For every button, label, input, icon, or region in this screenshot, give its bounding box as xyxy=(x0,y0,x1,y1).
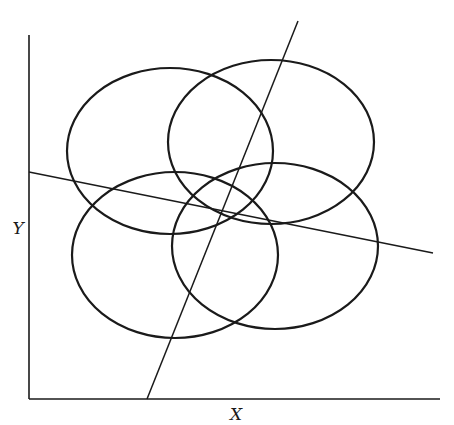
ellipse-top-right xyxy=(168,60,374,224)
y-axis-label: Y xyxy=(12,218,25,238)
ellipses-group xyxy=(67,60,378,338)
steep-discriminant-line xyxy=(147,21,298,399)
ellipse-top-left xyxy=(67,68,273,234)
scatter-ellipse-diagram: X Y xyxy=(0,0,454,425)
x-axis-label: X xyxy=(228,404,243,424)
diagram-canvas: X Y xyxy=(0,0,454,425)
ellipse-bottom-right xyxy=(172,163,378,329)
ellipse-bottom-left xyxy=(72,172,278,338)
